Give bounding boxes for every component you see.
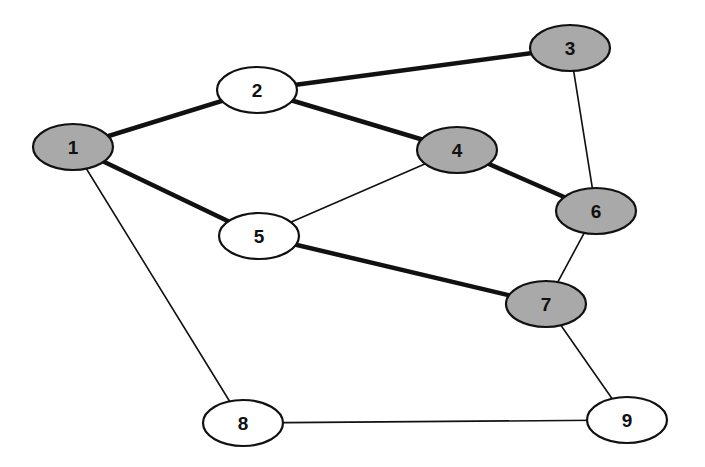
node-2: 2 — [217, 67, 297, 113]
node-label-8: 8 — [238, 413, 249, 434]
node-label-4: 4 — [452, 140, 463, 161]
node-3: 3 — [530, 25, 610, 71]
node-8: 8 — [203, 400, 283, 446]
node-label-3: 3 — [565, 38, 576, 59]
node-1: 1 — [33, 124, 113, 170]
edge-2-3-bold — [257, 48, 570, 90]
node-4: 4 — [417, 127, 497, 173]
node-5: 5 — [219, 213, 299, 259]
edge-layer — [73, 48, 627, 423]
node-label-1: 1 — [68, 137, 79, 158]
node-9: 9 — [587, 397, 667, 443]
node-label-6: 6 — [591, 201, 602, 222]
graph-diagram: 123456789 — [0, 0, 705, 467]
edge-5-7-bold — [259, 236, 546, 304]
node-label-9: 9 — [622, 410, 633, 431]
node-label-7: 7 — [541, 294, 552, 315]
node-6: 6 — [556, 188, 636, 234]
node-7: 7 — [506, 281, 586, 327]
node-label-2: 2 — [252, 80, 263, 101]
edge-8-9 — [243, 420, 627, 423]
edge-3-6 — [570, 48, 596, 211]
node-label-5: 5 — [254, 226, 265, 247]
